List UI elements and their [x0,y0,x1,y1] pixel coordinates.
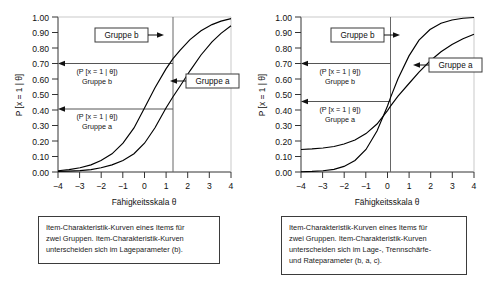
x-tick-label: 4 [229,181,234,191]
y-tick-label: 0.90 [275,28,292,38]
x-axis-ticks-left [58,172,231,178]
caption-line: zwei Gruppen. Item-Charakteristik-Kurven [289,234,459,245]
y-tick-label: 0.60 [275,75,292,85]
x-tick-label: −4 [296,181,306,191]
y-axis-ticks-right [295,17,301,172]
callout-gruppe-b[interactable]: Gruppe b [95,28,164,42]
leader-line-group-b [301,61,391,66]
caption-left: Item-Charakteristik-Kurven eines Items f… [38,216,220,264]
callout-gruppe-b-label: Gruppe b [340,31,375,40]
x-tick-label: −4 [53,181,63,191]
callout-gruppe-b[interactable]: Gruppe b [331,28,400,42]
annotation-prob-gruppe-a: (P [x = 1 | θ]) Gruppe a [76,112,117,131]
callout-gruppe-a-label: Gruppe a [195,77,230,86]
x-axis-tick-labels-left: −4 −3 −2 −1 0 1 2 3 4 [53,181,234,191]
annotation-prob-gruppe-a-line2: Gruppe a [325,115,355,124]
chart-left: 1.00 0.90 0.80 0.70 0.60 0.50 0.40 0.30 … [0,0,242,212]
leader-line-group-a [58,106,173,111]
x-tick-label: −1 [361,181,371,191]
x-tick-label: 1 [407,181,412,191]
x-tick-label: 0 [142,181,147,191]
curve-gruppe-a [301,18,474,172]
y-axis-tick-labels-left: 1.00 0.90 0.80 0.70 0.60 0.50 0.40 0.30 … [32,13,49,178]
x-axis-title: Fähigkeitsskala θ [112,197,177,207]
annotation-prob-gruppe-a-line2: Gruppe a [82,122,112,131]
y-tick-label: 0.80 [32,44,49,54]
x-axis-ticks-right [301,172,474,178]
annotation-prob-gruppe-b-line1: (P [x = 1 | θ]) [76,67,117,76]
annotation-prob-gruppe-a-line1: (P [x = 1 | θ]) [319,105,360,114]
x-tick-label: 3 [207,181,212,191]
curve-gruppe-b [301,34,474,149]
y-tick-label: 0.30 [275,121,292,131]
caption-right: Item-Charakteristik-Kurven eines Items f… [281,216,467,275]
annotation-prob-gruppe-a: (P [x = 1 | θ]) Gruppe a [319,105,360,124]
callout-gruppe-a-label: Gruppe a [438,61,473,70]
leader-line-group-a [301,99,391,104]
y-axis-title: P [x = 1 | θ] [257,74,267,116]
caption-line: Item-Charakteristik-Kurven eines Items f… [46,223,212,234]
y-tick-label: 0.70 [275,59,292,69]
annotation-prob-gruppe-b: (P [x = 1 | θ]) Gruppe b [76,67,117,86]
annotation-prob-gruppe-b-line2: Gruppe b [325,77,355,86]
chart-right: 1.00 0.90 0.80 0.70 0.60 0.50 0.40 0.30 … [243,0,485,212]
x-tick-label: −2 [339,181,349,191]
y-tick-label: 0.00 [32,168,49,178]
y-axis-ticks-left [52,17,58,172]
leader-line-group-b [58,61,173,66]
y-tick-label: 1.00 [32,13,49,23]
x-tick-label: 4 [472,181,477,191]
caption-line: unterscheiden sich im Lage-, Trennschärf… [289,245,459,256]
curve-gruppe-a [58,26,231,172]
y-tick-label: 0.80 [275,44,292,54]
x-tick-label: 2 [185,181,190,191]
x-axis-title: Fähigkeitsskala θ [355,197,420,207]
figure-root: 1.00 0.90 0.80 0.70 0.60 0.50 0.40 0.30 … [0,0,485,285]
x-tick-label: 3 [450,181,455,191]
annotation-prob-gruppe-b: (P [x = 1 | θ]) Gruppe b [319,67,360,86]
y-tick-label: 0.20 [275,137,292,147]
y-tick-label: 0.50 [32,90,49,100]
x-axis-tick-labels-right: −4 −3 −2 −1 0 1 2 3 4 [296,181,477,191]
y-tick-label: 1.00 [275,13,292,23]
y-tick-label: 0.00 [275,168,292,178]
y-tick-label: 0.90 [32,28,49,38]
panel-left: 1.00 0.90 0.80 0.70 0.60 0.50 0.40 0.30 … [0,0,242,285]
y-tick-label: 0.40 [32,106,49,116]
x-tick-label: −1 [118,181,128,191]
annotation-prob-gruppe-b-line2: Gruppe b [82,77,112,86]
annotation-prob-gruppe-a-line1: (P [x = 1 | θ]) [76,112,117,121]
y-tick-label: 0.50 [275,90,292,100]
x-tick-label: −3 [75,181,85,191]
caption-line: unterscheiden sich im Lageparameter (b). [46,245,212,256]
x-tick-label: 1 [164,181,169,191]
callout-gruppe-a[interactable]: Gruppe a [413,58,482,72]
x-tick-label: 0 [385,181,390,191]
y-axis-tick-labels-right: 1.00 0.90 0.80 0.70 0.60 0.50 0.40 0.30 … [275,13,292,178]
x-tick-label: −3 [318,181,328,191]
callout-gruppe-b-label: Gruppe b [104,31,139,40]
panel-right: 1.00 0.90 0.80 0.70 0.60 0.50 0.40 0.30 … [243,0,485,285]
axes-right [301,17,474,172]
caption-line: und Rateparameter (b, a, c). [289,256,459,267]
caption-line: Item-Charakteristik-Kurven eines Items f… [289,223,459,234]
y-axis-title: P [x = 1 | θ] [14,74,24,116]
y-tick-label: 0.10 [32,152,49,162]
y-tick-label: 0.20 [32,137,49,147]
annotation-prob-gruppe-b-line1: (P [x = 1 | θ]) [319,67,360,76]
x-tick-label: −2 [96,181,106,191]
y-tick-label: 0.10 [275,152,292,162]
x-tick-label: 2 [428,181,433,191]
y-tick-label: 0.40 [275,106,292,116]
y-tick-label: 0.30 [32,121,49,131]
y-tick-label: 0.70 [32,59,49,69]
y-tick-label: 0.60 [32,75,49,85]
caption-line: zwei Gruppen. Item-Charakteristik-Kurven [46,234,212,245]
